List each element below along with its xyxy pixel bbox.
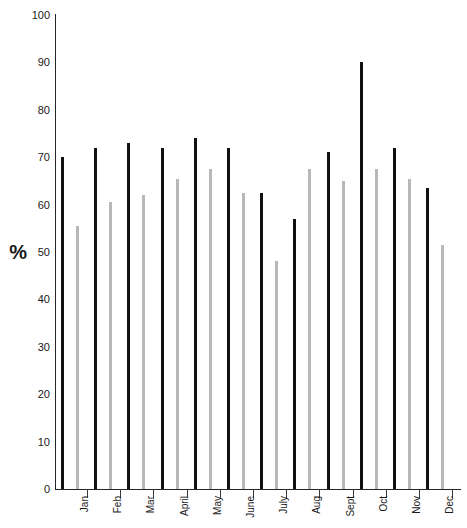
bar-feb-series-1 xyxy=(94,148,97,489)
bar-feb-series-2 xyxy=(109,202,112,489)
bar-chart: % 0102030405060708090100 JanFebMarAprilM… xyxy=(0,0,467,528)
bar-jan-series-1 xyxy=(61,157,64,489)
plot-area xyxy=(0,0,467,528)
bar-aug-series-2 xyxy=(308,169,311,489)
bar-july-series-1 xyxy=(260,193,263,489)
bar-july-series-2 xyxy=(275,261,278,489)
bar-sept-series-1 xyxy=(327,152,330,489)
bar-mar-series-2 xyxy=(142,195,145,489)
bar-nov-series-2 xyxy=(408,179,411,489)
bar-mar-series-1 xyxy=(127,143,130,489)
bar-may-series-1 xyxy=(194,138,197,489)
bar-june-series-2 xyxy=(242,193,245,489)
bar-sept-series-2 xyxy=(342,181,345,489)
bar-jan-series-2 xyxy=(76,226,79,489)
bar-aug-series-1 xyxy=(293,219,296,489)
bar-dec-series-1 xyxy=(426,188,429,489)
bar-april-series-1 xyxy=(161,148,164,489)
bar-may-series-2 xyxy=(209,169,212,489)
bar-oct-series-1 xyxy=(360,62,363,489)
bar-june-series-1 xyxy=(227,148,230,489)
bar-dec-series-2 xyxy=(441,245,444,489)
bar-nov-series-1 xyxy=(393,148,396,489)
bar-oct-series-2 xyxy=(375,169,378,489)
bar-april-series-2 xyxy=(176,179,179,489)
